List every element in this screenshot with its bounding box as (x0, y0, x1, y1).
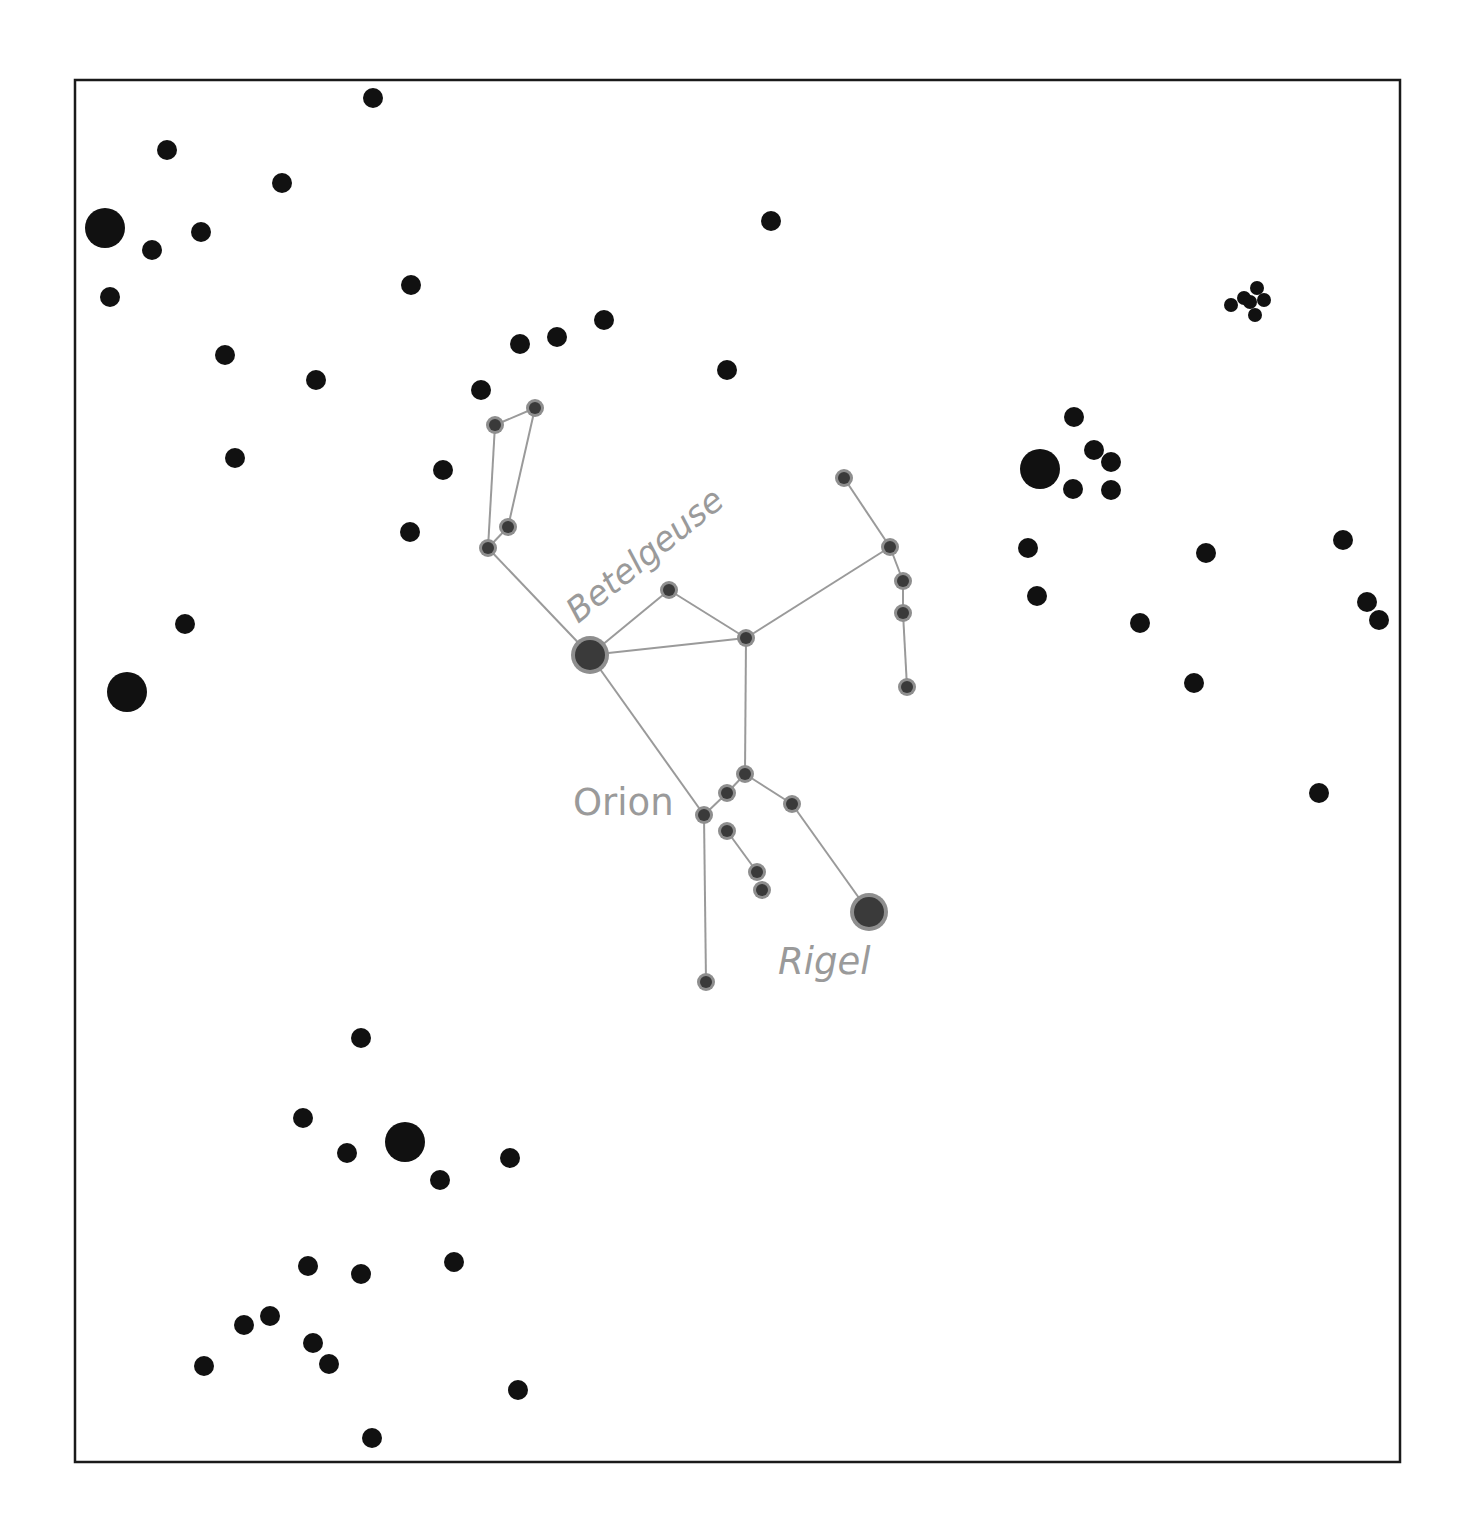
star (717, 360, 737, 380)
star (471, 380, 491, 400)
constellation-star (526, 399, 544, 417)
star (1243, 295, 1257, 309)
star (433, 460, 453, 480)
constellation-line (792, 804, 869, 912)
star (100, 287, 120, 307)
star (1309, 783, 1329, 803)
constellation-star (479, 539, 497, 557)
constellation-star (718, 784, 736, 802)
constellation-star (835, 469, 853, 487)
orion-label: Orion (573, 781, 674, 824)
bright-star (1020, 449, 1060, 489)
constellation-star (695, 806, 713, 824)
betelgeuse-label: Betelgeuse (558, 479, 731, 630)
star (362, 1428, 382, 1448)
star (1101, 452, 1121, 472)
constellation-star (748, 863, 766, 881)
constellation-line (669, 590, 746, 638)
star (351, 1264, 371, 1284)
star (1184, 673, 1204, 693)
constellation-star (736, 765, 754, 783)
star (234, 1315, 254, 1335)
star (1130, 613, 1150, 633)
constellation-line (745, 638, 746, 774)
star (1257, 293, 1271, 307)
star (293, 1108, 313, 1128)
star (351, 1028, 371, 1048)
star (157, 140, 177, 160)
star (1101, 480, 1121, 500)
star (1196, 543, 1216, 563)
star (363, 88, 383, 108)
star-chart: Betelgeuse Orion Rigel (0, 0, 1470, 1535)
constellation-star (718, 822, 736, 840)
star (500, 1148, 520, 1168)
constellation-star (486, 416, 504, 434)
star (508, 1380, 528, 1400)
star (1064, 407, 1084, 427)
star (1248, 308, 1262, 322)
star (215, 345, 235, 365)
star (337, 1143, 357, 1163)
star (1027, 586, 1047, 606)
star (761, 211, 781, 231)
star (594, 310, 614, 330)
constellation-line (508, 408, 535, 527)
constellation-line (903, 613, 907, 687)
star (272, 173, 292, 193)
constellation-line (746, 547, 890, 638)
constellation-star (783, 795, 801, 813)
constellation-star (894, 604, 912, 622)
constellation-star (898, 678, 916, 696)
star (1084, 440, 1104, 460)
star (1333, 530, 1353, 550)
star (303, 1333, 323, 1353)
constellation-star (660, 581, 678, 599)
star (401, 275, 421, 295)
star (225, 448, 245, 468)
star (260, 1306, 280, 1326)
star (306, 370, 326, 390)
star (400, 522, 420, 542)
constellation-line (590, 638, 746, 655)
constellation-line (704, 815, 706, 982)
rigel-label: Rigel (778, 940, 871, 983)
constellation-star (499, 518, 517, 536)
bright-star (385, 1122, 425, 1162)
star (1250, 281, 1264, 295)
constellation-star (881, 538, 899, 556)
star (1063, 479, 1083, 499)
star (430, 1170, 450, 1190)
star (444, 1252, 464, 1272)
constellation-star (737, 629, 755, 647)
star (1224, 298, 1238, 312)
star-rigel (850, 893, 888, 931)
star (194, 1356, 214, 1376)
bright-star (85, 208, 125, 248)
constellation-line (844, 478, 890, 547)
star (319, 1354, 339, 1374)
star (547, 327, 567, 347)
star (191, 222, 211, 242)
star (510, 334, 530, 354)
star (1018, 538, 1038, 558)
field-stars (85, 88, 1389, 1448)
constellation-star (753, 881, 771, 899)
constellation-line (488, 425, 495, 548)
bright-star (107, 672, 147, 712)
star (175, 614, 195, 634)
star (142, 240, 162, 260)
star (298, 1256, 318, 1276)
star-betelgeuse (571, 636, 609, 674)
star (1369, 610, 1389, 630)
star (1357, 592, 1377, 612)
constellation-star (894, 572, 912, 590)
constellation-star (697, 973, 715, 991)
